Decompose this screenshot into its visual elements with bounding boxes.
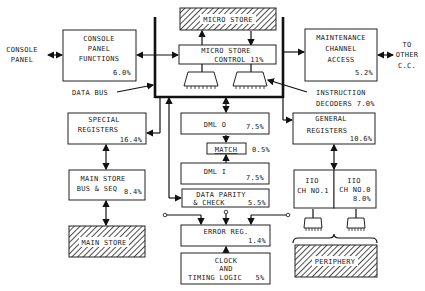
svg-text:C.C.: C.C. <box>398 62 416 70</box>
block-main-store: MAIN STORE <box>69 226 145 257</box>
io-connector-1-icon <box>304 209 322 231</box>
cpu-block-diagram: CONSOLE PANEL CONSOLE PANEL FUNCTIONS 6.… <box>0 0 425 291</box>
periphery-brace <box>293 234 377 243</box>
svg-text:5%: 5% <box>255 274 265 282</box>
block-dml0: DML O 7.5% <box>181 113 269 134</box>
block-data-parity-check: DATA PARITY & CHECK 5.5% <box>182 189 269 207</box>
svg-text:8.4%: 8.4% <box>124 188 143 196</box>
svg-text:SPECIAL: SPECIAL <box>88 116 120 124</box>
svg-text:16.4%: 16.4% <box>120 136 143 144</box>
svg-text:DML I: DML I <box>204 168 227 176</box>
svg-text:TIMING LOGIC: TIMING LOGIC <box>188 274 242 282</box>
block-error-reg: ERROR REG. 1.4% <box>181 225 270 246</box>
block-io-channel-0: IIO CH NO.0 8.0% <box>334 170 376 208</box>
console-panel-label: CONSOLE PANEL <box>6 46 38 64</box>
svg-text:TO: TO <box>402 41 411 49</box>
instruction-decoder-right-icon <box>233 64 267 89</box>
to-other-cc-label: TO OTHER C.C. <box>396 41 419 70</box>
svg-text:DATA PARITY: DATA PARITY <box>196 191 246 199</box>
block-micro-store: MICRO STORE <box>180 8 276 30</box>
svg-text:ERROR REG.: ERROR REG. <box>203 228 248 236</box>
block-periphery: PERIPHERY <box>295 245 377 277</box>
svg-text:MAIN STORE: MAIN STORE <box>81 239 126 247</box>
svg-text:CH NO.1: CH NO.1 <box>297 187 329 195</box>
svg-text:CONTROL 11%: CONTROL 11% <box>214 56 264 64</box>
block-dml1: DML I 7.5% <box>181 163 269 184</box>
svg-text:MICRO STORE: MICRO STORE <box>201 47 251 55</box>
svg-text:INSTRUCTION: INSTRUCTION <box>316 89 366 97</box>
svg-text:IIO: IIO <box>347 177 361 185</box>
data-bus-pointer <box>117 85 153 92</box>
block-console-panel-functions: CONSOLE PANEL FUNCTIONS 6.0% <box>63 30 136 81</box>
svg-text:& CHECK: & CHECK <box>193 199 225 207</box>
svg-text:7.5%: 7.5% <box>246 123 265 131</box>
block-clock-timing-logic: CLOCK AND TIMING LOGIC 5% <box>181 253 270 284</box>
block-micro-store-control: MICRO STORE CONTROL 11% <box>179 45 276 64</box>
svg-text:CONSOLE: CONSOLE <box>83 35 115 43</box>
svg-text:PANEL: PANEL <box>88 45 111 53</box>
svg-text:AND: AND <box>219 265 233 273</box>
svg-text:5.5%: 5.5% <box>248 199 267 207</box>
svg-text:PERIPHERY: PERIPHERY <box>315 258 356 266</box>
svg-text:CLOCK: CLOCK <box>215 257 238 265</box>
svg-text:REGISTERS: REGISTERS <box>78 126 119 134</box>
block-general-registers: GENERAL REGISTERS 10.6% <box>293 113 375 144</box>
svg-text:BUS & SEQ: BUS & SEQ <box>77 185 118 193</box>
instruction-decoder-left-icon <box>184 64 218 89</box>
io-connector-0-icon <box>347 209 365 231</box>
svg-text:OTHER: OTHER <box>396 51 419 59</box>
block-main-store-bus-seq: MAIN STORE BUS & SEQ 8.4% <box>69 170 145 200</box>
error-inputs <box>163 210 290 224</box>
svg-text:GENERAL: GENERAL <box>315 115 347 123</box>
svg-text:MAINTENANCE: MAINTENANCE <box>316 34 366 42</box>
svg-text:10.6%: 10.6% <box>350 135 373 143</box>
block-io-channel-1: IIO CH NO.1 <box>294 170 334 208</box>
svg-text:0.5%: 0.5% <box>252 146 271 154</box>
svg-text:PANEL: PANEL <box>11 56 34 64</box>
svg-text:1.4%: 1.4% <box>248 237 267 245</box>
instruction-decoders-label: INSTRUCTION DECODERS 7.0% <box>316 89 375 108</box>
block-match: MATCH 0.5% <box>207 143 271 154</box>
svg-text:REGISTERS: REGISTERS <box>307 127 348 135</box>
block-special-registers: SPECIAL REGISTERS 16.4% <box>68 113 146 144</box>
data-bus-label: DATA BUS <box>72 89 108 97</box>
block-maintenance-channel-access: MAINTENANCE CHANNEL ACCESS 5.2% <box>305 29 377 81</box>
svg-text:MATCH: MATCH <box>215 146 238 154</box>
svg-text:FUNCTIONS: FUNCTIONS <box>79 55 120 63</box>
svg-text:ACCESS: ACCESS <box>327 56 354 64</box>
svg-text:MAIN STORE: MAIN STORE <box>80 175 125 183</box>
svg-text:MICRO STORE: MICRO STORE <box>203 16 253 24</box>
svg-text:CHANNEL: CHANNEL <box>325 45 357 53</box>
svg-text:DECODERS 7.0%: DECODERS 7.0% <box>316 100 375 108</box>
decoder-pointer <box>268 80 307 92</box>
svg-text:IIO: IIO <box>305 177 319 185</box>
svg-text:DML O: DML O <box>204 121 227 129</box>
svg-text:6.0%: 6.0% <box>113 69 132 77</box>
svg-text:CONSOLE: CONSOLE <box>6 46 38 54</box>
svg-text:5.2%: 5.2% <box>355 69 374 77</box>
svg-text:8.0%: 8.0% <box>353 195 372 203</box>
svg-text:7.5%: 7.5% <box>246 174 265 182</box>
svg-text:CH NO.0: CH NO.0 <box>339 186 371 194</box>
